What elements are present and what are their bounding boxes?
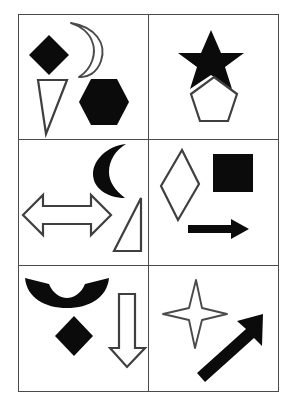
- square-filled-icon: [211, 152, 255, 194]
- diagonal-arrow-filled-icon: [193, 312, 267, 384]
- shape-grid: [18, 14, 279, 392]
- grid-cell-top-left: [19, 15, 149, 140]
- grid-cell-bottom-left: [19, 266, 149, 391]
- crescent-moon-outlined-icon: [61, 19, 109, 81]
- grid-cell-middle-left: [19, 140, 149, 265]
- down-arrow-outlined-icon: [108, 292, 148, 370]
- grid-cell-bottom-right: [149, 266, 279, 391]
- grid-cell-top-right: [149, 15, 279, 140]
- grid-cell-middle-right: [149, 140, 279, 265]
- right-triangle-outlined-icon: [111, 196, 145, 254]
- hexagon-filled-icon: [77, 77, 131, 127]
- crescent-arc-filled-icon: [23, 276, 111, 310]
- right-arrow-filled-icon: [187, 218, 251, 240]
- rhombus-outlined-icon: [159, 148, 201, 222]
- shape-grid-page: [0, 0, 293, 415]
- double-headed-arrow-outlined-icon: [21, 190, 113, 240]
- diamond-filled-icon: [53, 314, 95, 358]
- pentagon-outlined-icon: [189, 75, 239, 123]
- triangle-outlined-icon: [35, 77, 71, 137]
